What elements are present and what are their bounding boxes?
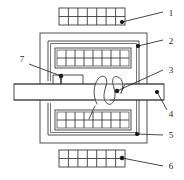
movable-armature-bar	[14, 84, 164, 100]
callout-label-2: 2	[169, 36, 174, 46]
callout-label-4: 4	[169, 109, 174, 119]
lower-inner-winding-block	[55, 110, 131, 130]
technical-diagram-svg: 1 2 3 4 5 6 7	[0, 0, 184, 180]
diagram-canvas: 1 2 3 4 5 6 7	[0, 0, 184, 180]
callout-label-7: 7	[20, 54, 25, 64]
callout-label-6: 6	[169, 161, 174, 171]
callout-label-3: 3	[169, 65, 174, 75]
contact-block	[53, 75, 83, 85]
upper-inner-winding-block	[55, 48, 131, 68]
callout-label-1: 1	[169, 8, 174, 18]
callout-label-5: 5	[169, 130, 174, 140]
